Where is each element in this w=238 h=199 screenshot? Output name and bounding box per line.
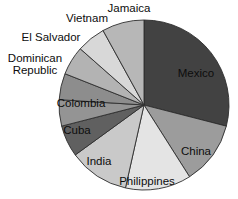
slice-label-el-salvador: El Salvador [19,31,83,43]
slice-label-cuba: Cuba [63,124,91,136]
slice-label-jamaica: Jamaica [108,2,151,14]
pie-chart-figure: MexicoChinaPhilippinesIndiaCubaColombiaD… [0,0,238,199]
slice-label-dominican-republic: Dominican Republic [3,52,67,76]
pie-chart [0,0,238,199]
slice-label-colombia: Colombia [57,97,106,109]
slice-label-vietnam: Vietnam [66,12,108,24]
slice-label-india: India [87,155,112,167]
slice-label-mexico: Mexico [178,67,214,79]
slice-label-philippines: Philippines [119,175,175,187]
slice-label-china: China [181,145,211,157]
